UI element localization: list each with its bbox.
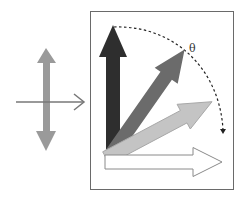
polarization-double-arrow — [36, 48, 56, 151]
theta-label: θ — [189, 42, 196, 55]
diagram-canvas: θ — [0, 0, 248, 201]
